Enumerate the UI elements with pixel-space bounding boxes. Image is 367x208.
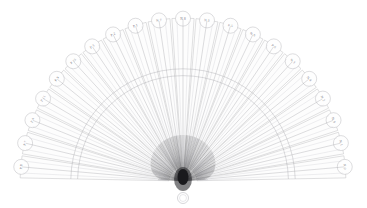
fan-hub-core-dense: [178, 169, 189, 185]
fan-blades-group: [14, 11, 353, 181]
fan-rivet: [178, 193, 189, 204]
fan-blade-label: P 8: [19, 164, 23, 169]
fan-diagram-svg: P 8P 7P 4P 11P 9P 10P 3P 2P 1N 7N 8N 5P …: [0, 0, 367, 208]
fan-blade-label: N 5: [204, 18, 210, 23]
fan-blade-label: N 7: [156, 18, 162, 23]
fan-rivet-ring: [178, 193, 189, 204]
fan-blade-label: N 0: [343, 164, 347, 170]
fan-figure: P 8P 7P 4P 11P 9P 10P 3P 2P 1N 7N 8N 5P …: [0, 0, 367, 208]
fan-blade-label: N 8: [180, 17, 186, 21]
